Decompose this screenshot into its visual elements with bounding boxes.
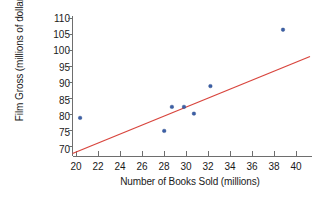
- x-axis-ticks: [77, 151, 297, 157]
- y-axis-ticks: [68, 19, 73, 147]
- data-point: [170, 105, 173, 108]
- trendline: [73, 57, 311, 154]
- scatter-plot-figure: Film Gross (millions of dollars) Number …: [0, 0, 334, 197]
- data-points: [78, 28, 284, 133]
- data-point: [281, 28, 284, 31]
- data-point: [209, 84, 212, 87]
- data-point: [163, 129, 166, 132]
- data-point: [182, 105, 185, 108]
- data-point: [78, 116, 81, 119]
- data-point: [192, 112, 195, 115]
- plot-canvas: [0, 0, 334, 197]
